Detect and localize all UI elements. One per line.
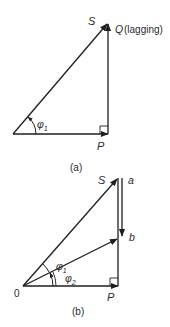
diagram-b: S a b φ1 φ2 0 P (b) — [14, 174, 135, 317]
label-a-b: a — [128, 174, 134, 186]
angle-arc-phi1-b — [43, 264, 49, 272]
label-phi1-a: φ1 — [37, 118, 48, 132]
label-p-b: P — [107, 291, 115, 303]
angle-arc-phi1-a — [28, 117, 36, 134]
vector-s-a — [13, 24, 107, 134]
label-q-note-a: (lagging) — [124, 24, 163, 35]
right-angle-marker-b — [110, 278, 118, 286]
label-origin-b: 0 — [14, 288, 20, 299]
caption-b: (b) — [72, 306, 84, 317]
label-p-a: P — [97, 140, 105, 152]
right-angle-marker-a — [100, 126, 108, 134]
diagram-a: S Q (lagging) φ1 P (a) — [13, 15, 163, 173]
label-s-a: S — [88, 15, 96, 27]
caption-a: (a) — [70, 162, 82, 173]
label-b-b: b — [129, 231, 135, 243]
label-phi2-b: φ2 — [65, 272, 76, 286]
power-triangle-figure: S Q (lagging) φ1 P (a) S a b φ1 φ — [0, 0, 170, 327]
angle-arc-phi2-b — [50, 273, 53, 286]
angle-arc-phi2-b-inner — [53, 272, 56, 286]
label-q-a: Q — [115, 23, 123, 35]
label-s-b: S — [98, 174, 106, 186]
vector-s-b — [23, 179, 117, 286]
